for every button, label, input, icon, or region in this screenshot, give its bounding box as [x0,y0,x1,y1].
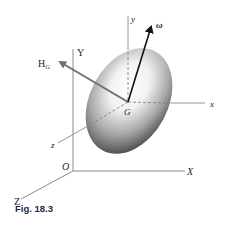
angular-velocity-label: ω [156,20,163,30]
x-axis-label: x [209,99,214,109]
z-axis-label: z [50,140,55,150]
center-of-mass-label: G [124,107,131,117]
Z-axis-line [21,171,73,199]
angular-momentum-symbol: H [38,58,45,69]
origin-label: O [62,161,69,172]
angular-momentum-label: HG [38,58,50,70]
angular-momentum-subscript: G [45,63,50,70]
rigid-body-diagram: Y X Z O y x z G HG ω [0,0,232,226]
Y-axis-label: Y [77,47,84,58]
figure-caption: Fig. 18.3 [15,203,53,214]
X-axis-label: X [186,166,194,177]
y-axis-label: y [130,14,135,24]
